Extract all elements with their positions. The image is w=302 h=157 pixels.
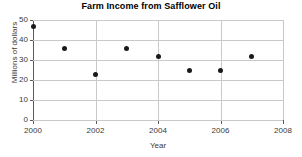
y-tick-label: 20 bbox=[6, 76, 28, 84]
data-point bbox=[93, 72, 98, 77]
x-tick-label: 2002 bbox=[76, 127, 116, 135]
x-tick-label: 2004 bbox=[138, 127, 178, 135]
chart-title: Farm Income from Safflower Oil bbox=[0, 1, 302, 11]
y-tick-label: 0 bbox=[6, 116, 28, 124]
gridline-horizontal bbox=[33, 120, 283, 121]
x-tick-label: 2008 bbox=[263, 127, 302, 135]
data-point bbox=[218, 68, 223, 73]
gridline-vertical bbox=[158, 20, 159, 120]
data-point bbox=[187, 68, 192, 73]
data-point bbox=[249, 54, 254, 59]
data-point bbox=[124, 46, 129, 51]
data-point bbox=[62, 46, 67, 51]
x-tick-label: 2000 bbox=[13, 127, 53, 135]
data-point bbox=[31, 24, 36, 29]
y-tick-label: 50 bbox=[6, 16, 28, 24]
x-tick-label: 2006 bbox=[201, 127, 241, 135]
x-tick bbox=[283, 120, 284, 124]
gridline-vertical bbox=[96, 20, 97, 120]
x-axis-title: Year bbox=[33, 141, 283, 150]
scatter-chart: Farm Income from Safflower Oil Millions … bbox=[0, 0, 302, 157]
data-point bbox=[156, 54, 161, 59]
y-tick-label: 40 bbox=[6, 36, 28, 44]
y-tick-label: 10 bbox=[6, 96, 28, 104]
gridline-vertical bbox=[283, 20, 284, 120]
y-tick-label: 30 bbox=[6, 56, 28, 64]
plot-area bbox=[33, 20, 283, 120]
